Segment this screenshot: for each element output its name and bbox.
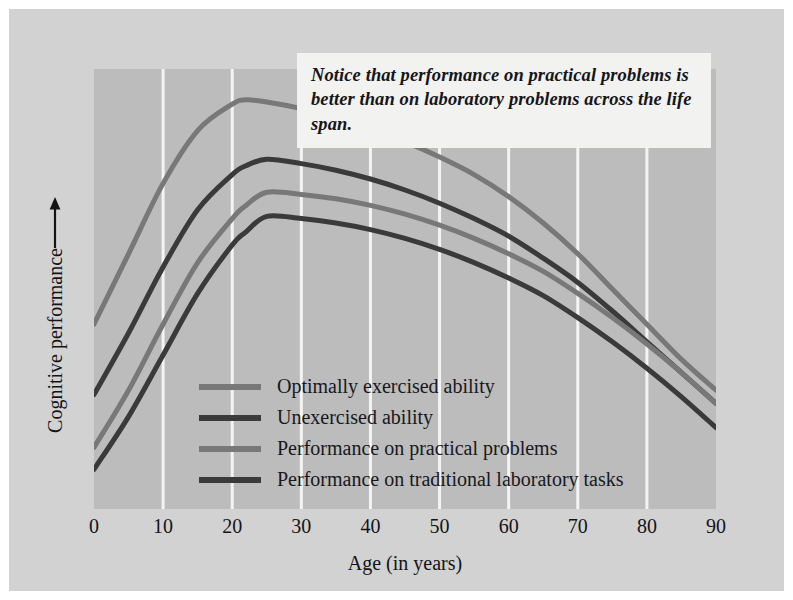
legend-swatch (199, 477, 261, 483)
x-axis-title: Age (in years) (94, 552, 716, 575)
callout-box: Notice that performance on practical pro… (297, 53, 711, 148)
legend-swatch (199, 415, 261, 421)
legend-item: Optimally exercised ability (199, 371, 624, 402)
x-tick-label: 40 (360, 515, 380, 538)
legend-label: Unexercised ability (277, 406, 433, 429)
x-tick-label: 50 (430, 515, 450, 538)
figure-container: Notice that performance on practical pro… (0, 0, 793, 600)
chart-legend: Optimally exercised abilityUnexercised a… (199, 371, 624, 495)
legend-item: Performance on traditional laboratory ta… (199, 464, 624, 495)
legend-item: Performance on practical problems (199, 433, 624, 464)
up-arrow-icon (35, 194, 75, 250)
legend-label: Performance on practical problems (277, 437, 557, 460)
legend-swatch (199, 446, 261, 452)
x-axis-tick-labels: 0102030405060708090 (94, 515, 716, 545)
legend-label: Optimally exercised ability (277, 375, 495, 398)
figure-panel: Notice that performance on practical pro… (9, 9, 784, 591)
callout-text: Notice that performance on practical pro… (311, 63, 699, 136)
x-tick-label: 30 (291, 515, 311, 538)
legend-label: Performance on traditional laboratory ta… (277, 468, 624, 491)
legend-item: Unexercised ability (199, 402, 624, 433)
x-tick-label: 70 (568, 515, 588, 538)
legend-swatch (199, 384, 261, 390)
x-tick-label: 0 (89, 515, 99, 538)
y-axis-group: Cognitive performance (35, 194, 75, 504)
x-tick-label: 10 (153, 515, 173, 538)
x-tick-label: 60 (499, 515, 519, 538)
y-axis-title: Cognitive performance (44, 248, 67, 433)
x-tick-label: 80 (637, 515, 657, 538)
x-tick-label: 90 (706, 515, 726, 538)
x-tick-label: 20 (222, 515, 242, 538)
